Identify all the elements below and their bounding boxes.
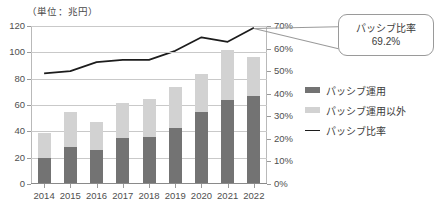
bar-segment-non-passive bbox=[64, 112, 77, 148]
legend-swatch-icon bbox=[305, 87, 320, 93]
left-axis-tick-mark bbox=[27, 105, 31, 106]
callout-value: 69.2% bbox=[372, 35, 400, 49]
bar-stack bbox=[64, 112, 77, 183]
callout-title: パッシブ比率 bbox=[356, 22, 416, 36]
bar-segment-passive bbox=[143, 137, 156, 183]
category-tick-label: 2022 bbox=[237, 191, 271, 201]
bar-segment-passive bbox=[169, 128, 182, 183]
bar-segment-passive bbox=[116, 138, 129, 183]
bar-stack bbox=[90, 122, 103, 183]
bar-segment-non-passive bbox=[247, 57, 260, 97]
bar-segment-non-passive bbox=[90, 122, 103, 150]
bar-segment-passive bbox=[221, 100, 234, 183]
right-axis-tick-label: 60% bbox=[274, 44, 302, 54]
gridline bbox=[31, 26, 267, 27]
category-tick-mark bbox=[254, 184, 255, 188]
category-tick-mark bbox=[70, 184, 71, 188]
legend-item[interactable]: パッシブ運用 bbox=[305, 80, 441, 100]
right-axis-tick-label: 10% bbox=[274, 156, 302, 166]
left-axis-tick-label: 60 bbox=[3, 100, 25, 110]
bar-segment-passive bbox=[38, 158, 51, 183]
left-axis-tick-label: 100 bbox=[3, 47, 25, 57]
bar-segment-non-passive bbox=[221, 50, 234, 100]
right-axis-tick-mark bbox=[267, 94, 271, 95]
right-axis-tick-label: 40% bbox=[274, 89, 302, 99]
right-axis-tick-mark bbox=[267, 139, 271, 140]
left-axis-tick-label: 20 bbox=[3, 153, 25, 163]
right-axis-tick-mark bbox=[267, 116, 271, 117]
bar-stack bbox=[221, 50, 234, 183]
right-axis-tick-label: 50% bbox=[274, 66, 302, 76]
category-tick-mark bbox=[97, 184, 98, 188]
chart-figure: （単位：兆円） 020406080100120 0%10%20%30%40%50… bbox=[0, 0, 441, 208]
right-axis-tick-mark bbox=[267, 49, 271, 50]
left-axis-tick-mark bbox=[27, 79, 31, 80]
bar-stack bbox=[195, 74, 208, 183]
legend-item-label: パッシブ比率 bbox=[326, 123, 386, 138]
left-axis-tick-label: 80 bbox=[3, 74, 25, 84]
right-axis-tick-label: 70% bbox=[274, 21, 302, 31]
bar-stack bbox=[169, 87, 182, 183]
right-axis-tick-label: 30% bbox=[274, 111, 302, 121]
bar-segment-non-passive bbox=[195, 74, 208, 112]
category-tick-mark bbox=[44, 184, 45, 188]
legend-swatch-icon bbox=[305, 107, 320, 113]
category-tick-mark bbox=[149, 184, 150, 188]
callout-passive-ratio: パッシブ比率 69.2% bbox=[338, 14, 434, 56]
unit-label: （単位：兆円） bbox=[27, 4, 98, 18]
legend-item-label: パッシブ運用以外 bbox=[326, 103, 406, 118]
bar-segment-non-passive bbox=[169, 87, 182, 128]
left-axis-tick-label: 0 bbox=[3, 179, 25, 189]
legend-item[interactable]: パッシブ比率 bbox=[305, 120, 441, 140]
plot-area bbox=[31, 26, 267, 184]
right-axis-tick-mark bbox=[267, 184, 271, 185]
right-axis-tick-mark bbox=[267, 71, 271, 72]
legend-item[interactable]: パッシブ運用以外 bbox=[305, 100, 441, 120]
bar-segment-passive bbox=[195, 112, 208, 183]
bar-segment-passive bbox=[247, 96, 260, 183]
category-tick-mark bbox=[228, 184, 229, 188]
legend-item-label: パッシブ運用 bbox=[326, 83, 386, 98]
left-axis-tick-mark bbox=[27, 26, 31, 27]
left-axis-tick-label: 120 bbox=[3, 21, 25, 31]
bar-segment-non-passive bbox=[38, 133, 51, 158]
bar-segment-non-passive bbox=[143, 99, 156, 137]
left-axis-tick-mark bbox=[27, 158, 31, 159]
bar-segment-passive bbox=[90, 150, 103, 183]
legend-line-marker-icon bbox=[305, 130, 320, 131]
bar-stack bbox=[143, 99, 156, 183]
bar-stack bbox=[116, 103, 129, 183]
right-axis-tick-label: 20% bbox=[274, 134, 302, 144]
left-axis-tick-mark bbox=[27, 131, 31, 132]
left-axis-tick-label: 40 bbox=[3, 126, 25, 136]
category-tick-mark bbox=[175, 184, 176, 188]
bar-stack bbox=[247, 57, 260, 183]
chart-legend: パッシブ運用パッシブ運用以外パッシブ比率 bbox=[305, 80, 441, 140]
bar-segment-passive bbox=[64, 147, 77, 183]
left-axis-tick-mark bbox=[27, 184, 31, 185]
category-tick-mark bbox=[123, 184, 124, 188]
bar-stack bbox=[38, 133, 51, 183]
bar-segment-non-passive bbox=[116, 103, 129, 139]
category-tick-mark bbox=[201, 184, 202, 188]
right-axis-tick-mark bbox=[267, 161, 271, 162]
right-axis-tick-label: 0% bbox=[274, 179, 302, 189]
left-axis-tick-mark bbox=[27, 52, 31, 53]
